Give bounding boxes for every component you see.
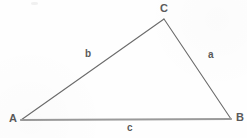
triangle-side-b-line (21, 19, 164, 120)
side-label-b: b (85, 49, 91, 59)
vertex-label-b: B (236, 112, 244, 123)
side-label-a: a (208, 50, 214, 60)
triangle-diagram-canvas: C A B b a c (0, 0, 247, 138)
triangle-side-c-line (21, 119, 231, 120)
triangle-figure (0, 0, 247, 138)
vertex-label-a: A (9, 113, 17, 124)
triangle-side-a-line (164, 19, 231, 119)
paper-smudge-artifact (31, 2, 38, 5)
vertex-label-c: C (160, 3, 168, 14)
side-label-c: c (127, 123, 133, 133)
